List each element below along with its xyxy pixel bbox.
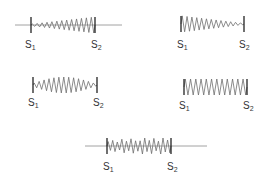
wave-path — [184, 79, 247, 95]
p2-s1-label: S1 — [177, 40, 188, 53]
p5-s2-label: S2 — [167, 162, 178, 175]
p4-s1-label: S1 — [179, 101, 190, 114]
p4-s2-label: S2 — [243, 101, 254, 114]
wave-path — [33, 77, 97, 93]
wave-panel-increasing — [15, 17, 122, 33]
p1-s1-label: S1 — [25, 40, 36, 53]
p3-s2-label: S2 — [93, 98, 104, 111]
wave-path — [31, 17, 95, 33]
p1-s2-label: S2 — [91, 40, 102, 53]
wave-panel-uniform — [184, 79, 247, 95]
p3-s1-label: S1 — [28, 98, 39, 111]
p5-s1-label: S1 — [103, 162, 114, 175]
wave-panel-decreasing — [181, 16, 244, 32]
p2-s2-label: S2 — [239, 40, 250, 53]
wave-panel-peak — [33, 77, 97, 93]
wave-path — [181, 16, 244, 32]
wave-diagram — [0, 0, 268, 189]
wave-panel-irregular — [85, 138, 207, 154]
